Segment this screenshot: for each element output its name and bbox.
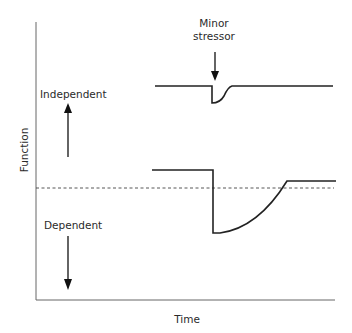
- stressor-arrowhead-icon: [211, 71, 219, 81]
- dependent-curve: [152, 170, 336, 233]
- diagram-canvas: Minor stressor Independent Dependent Fun…: [0, 0, 352, 333]
- stressor-label-line2: stressor: [193, 30, 235, 42]
- x-axis-label: Time: [173, 313, 200, 325]
- down-arrowhead-icon: [64, 279, 72, 290]
- up-arrowhead-icon: [64, 103, 72, 113]
- stressor-label-line1: Minor: [199, 17, 229, 29]
- dependent-label: Dependent: [44, 219, 102, 231]
- y-axis-label: Function: [18, 128, 30, 173]
- independent-curve: [155, 86, 333, 103]
- independent-label: Independent: [40, 88, 107, 100]
